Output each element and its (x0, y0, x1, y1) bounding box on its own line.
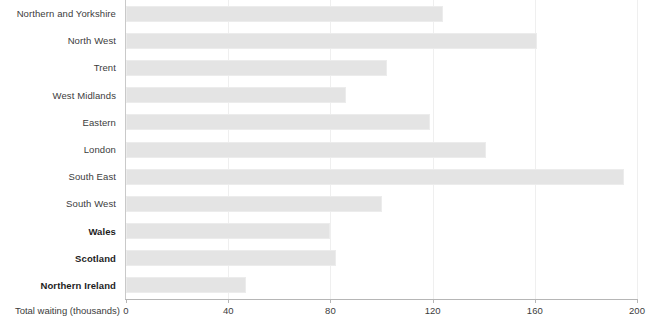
x-axis-title: Total waiting (thousands) (0, 305, 120, 316)
plot-area: 04080120160200 (126, 0, 637, 299)
x-tick-label: 120 (425, 305, 441, 316)
bar (126, 277, 246, 293)
category-label: Trent (0, 62, 116, 73)
x-tick-mark (126, 299, 127, 303)
x-tick-label: 200 (629, 305, 645, 316)
x-tick-mark (637, 299, 638, 303)
bar-chart: Northern and YorkshireNorth WestTrentWes… (0, 0, 649, 327)
bar (126, 223, 330, 239)
bar (126, 196, 382, 212)
x-tick-label: 160 (527, 305, 543, 316)
category-label: London (0, 144, 116, 155)
category-label: Northern Ireland (0, 280, 116, 291)
x-tick-label: 40 (223, 305, 234, 316)
x-tick-mark (535, 299, 536, 303)
category-label: Wales (0, 226, 116, 237)
category-label: South West (0, 198, 116, 209)
category-axis-labels: Northern and YorkshireNorth WestTrentWes… (0, 0, 122, 299)
bar (126, 250, 336, 266)
x-tick-mark (330, 299, 331, 303)
category-label: South East (0, 171, 116, 182)
category-label: Eastern (0, 117, 116, 128)
bar (126, 6, 443, 22)
x-tick-label: 80 (325, 305, 336, 316)
x-axis-line (125, 299, 638, 300)
category-label: Scotland (0, 253, 116, 264)
bar (126, 33, 537, 49)
bar (126, 114, 430, 130)
bar (126, 87, 346, 103)
x-gridline (637, 0, 638, 299)
bar (126, 169, 624, 185)
x-tick-label: 0 (123, 305, 128, 316)
category-label: West Midlands (0, 90, 116, 101)
x-tick-mark (228, 299, 229, 303)
category-label: Northern and Yorkshire (0, 8, 116, 19)
bar (126, 142, 486, 158)
bar (126, 60, 387, 76)
category-label: North West (0, 35, 116, 46)
x-tick-mark (433, 299, 434, 303)
